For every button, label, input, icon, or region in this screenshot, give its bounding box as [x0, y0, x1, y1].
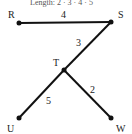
node-label-U: U: [7, 123, 15, 134]
node-T: [62, 68, 67, 73]
node-S: [109, 20, 114, 25]
edge-weight-R-S: 4: [61, 9, 66, 20]
edge-T-W: [64, 70, 111, 118]
edge-weight-T-U: 5: [46, 95, 51, 106]
edge-weight-T-W: 2: [90, 84, 95, 95]
node-label-T: T: [53, 57, 59, 68]
node-label-W: W: [116, 123, 126, 134]
node-W: [109, 116, 114, 121]
edge-T-U: [19, 70, 64, 118]
weighted-graph: Length: 2 · 3 · 4 · 5 R S T U W 4 3 5 2: [0, 0, 132, 134]
node-label-S: S: [118, 9, 124, 20]
node-U: [17, 116, 22, 121]
edge-weight-S-T: 3: [76, 37, 81, 48]
edge-S-T: [64, 22, 111, 70]
header-text: Length: 2 · 3 · 4 · 5: [30, 0, 93, 7]
node-label-R: R: [8, 9, 15, 20]
edge-R-S: [19, 22, 111, 23]
node-R: [17, 21, 22, 26]
